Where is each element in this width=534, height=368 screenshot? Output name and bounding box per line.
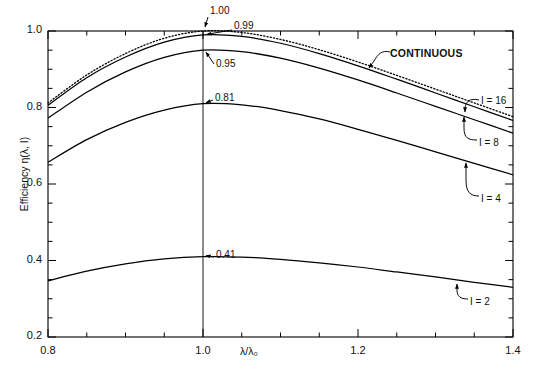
annotation-peak-0-81: 0.81 [215,92,234,103]
annotation-continuous: CONTINUOUS [390,47,463,59]
chart-figure: Efficiency η(λ, I) λ/λ₀ 0.81.01.21.40.20… [0,0,534,368]
tick-label: 0.6 [27,176,42,188]
annotation-series-i-16: I = 16 [481,95,506,106]
annotation-series-i-8: I = 8 [479,137,499,148]
annotation-peak-0-95: 0.95 [216,58,235,69]
annotation-peak-0-99: 0.99 [234,20,253,31]
tick-label: 1.2 [350,344,365,356]
x-axis-label: λ/λ₀ [240,345,258,357]
tick-label: 1.0 [195,344,210,356]
tick-label: 1.0 [27,23,42,35]
annotation-peak-1-00: 1.00 [210,5,229,16]
annotation-peak-0-41: 0.41 [216,249,235,260]
tick-label: 0.8 [27,100,42,112]
tick-label: 0.2 [27,329,42,341]
tick-label: 1.4 [505,344,520,356]
tick-label: 0.4 [27,253,42,265]
tick-label: 0.8 [40,344,55,356]
annotation-series-i-4: I = 4 [481,193,501,204]
y-axis-label: Efficiency η(λ, I) [18,104,30,244]
annotation-series-i-2: I = 2 [470,296,490,307]
